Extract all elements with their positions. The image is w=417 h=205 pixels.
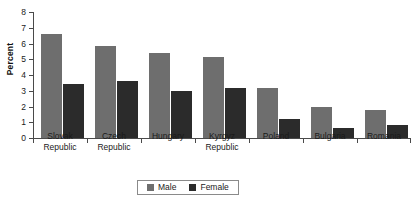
y-tick-label-7: 7 [21, 24, 26, 33]
x-label-line: Poland [249, 131, 303, 142]
y-tick-label-5: 5 [21, 55, 26, 64]
y-tick-label-1: 1 [21, 118, 26, 127]
y-tick-label-0: 0 [21, 134, 26, 143]
bar-female-0 [63, 84, 84, 138]
bar-male-0 [41, 34, 62, 138]
bar-chart: Percent 012345678 SlovakRepublicCzechRep… [0, 0, 417, 205]
x-label-line: Czech [87, 131, 141, 142]
legend-swatch-female [189, 184, 196, 191]
y-tick-2 [29, 107, 34, 108]
y-axis-title: Percent [5, 31, 15, 87]
x-label-0: SlovakRepublic [33, 131, 87, 152]
y-tick-6 [29, 44, 34, 45]
bar-male-3 [203, 57, 224, 138]
x-label-6: Romania [357, 131, 411, 142]
x-label-line: Republic [87, 142, 141, 153]
x-label-line: Republic [33, 142, 87, 153]
y-tick-8 [29, 12, 34, 13]
y-tick-3 [29, 91, 34, 92]
legend-swatch-male [147, 184, 154, 191]
x-label-line: Romania [357, 131, 411, 142]
y-tick-label-6: 6 [21, 39, 26, 48]
x-label-1: CzechRepublic [87, 131, 141, 152]
bar-male-1 [95, 46, 116, 138]
x-label-line: Bulgaria [303, 131, 357, 142]
y-tick-label-4: 4 [21, 71, 26, 80]
x-label-line: Republic [195, 142, 249, 153]
x-label-5: Bulgaria [303, 131, 357, 142]
y-tick-4 [29, 75, 34, 76]
x-label-3: KyrgyzRepublic [195, 131, 249, 152]
legend-item-female: Female [189, 183, 228, 192]
x-label-line: Kyrgyz [195, 131, 249, 142]
x-label-line: Hungary [141, 131, 195, 142]
legend-label-female: Female [200, 183, 228, 192]
y-tick-label-8: 8 [21, 8, 26, 17]
legend-label-male: Male [158, 183, 176, 192]
legend: Male Female [137, 180, 239, 195]
y-tick-label-3: 3 [21, 87, 26, 96]
legend-item-male: Male [147, 183, 176, 192]
y-tick-5 [29, 59, 34, 60]
y-tick-7 [29, 28, 34, 29]
bar-male-2 [149, 53, 170, 138]
plot-area: 012345678 [33, 12, 411, 139]
y-tick-1 [29, 122, 34, 123]
x-label-2: Hungary [141, 131, 195, 142]
x-label-4: Poland [249, 131, 303, 142]
x-label-line: Slovak [33, 131, 87, 142]
bar-female-1 [117, 81, 138, 138]
y-tick-label-2: 2 [21, 102, 26, 111]
